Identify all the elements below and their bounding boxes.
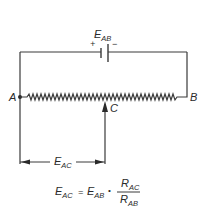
right-wire <box>178 52 187 97</box>
formula-equals: = <box>78 187 83 197</box>
resistor-zigzag <box>20 94 178 100</box>
node-b-label: B <box>190 91 197 103</box>
formula: EAC = EAB • RAC RAB <box>55 177 140 208</box>
formula-numerator: RAC <box>121 177 140 192</box>
arrowhead-left-icon <box>21 160 30 165</box>
source-label: EAB <box>94 28 111 43</box>
node-a-label: A <box>8 91 16 103</box>
plus-sign: + <box>90 39 95 49</box>
arrowhead-right-icon <box>95 160 104 165</box>
node-c-label: C <box>110 102 118 114</box>
formula-denominator: RAB <box>120 193 138 208</box>
wiper-arrow-icon <box>102 101 108 112</box>
circuit-diagram: EAB + − A B C EAC EAC = EAB • RAC RAB <box>0 0 208 216</box>
dimension-label: EAC <box>54 155 72 170</box>
formula-term: EAB <box>87 185 104 200</box>
minus-sign: − <box>112 39 117 49</box>
formula-lhs: EAC <box>55 185 73 200</box>
formula-times: • <box>108 186 111 195</box>
